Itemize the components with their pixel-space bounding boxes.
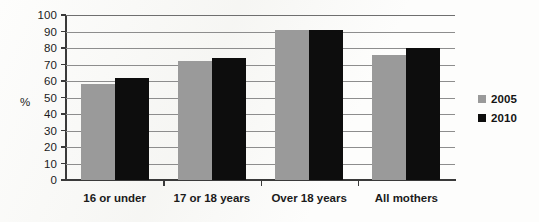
bar-pair — [358, 15, 455, 180]
x-axis-tick — [358, 180, 359, 186]
bar-2005 — [372, 55, 406, 180]
x-axis-category-label: Over 18 years — [271, 192, 346, 204]
legend-swatch-icon — [478, 95, 486, 103]
bar-group: 17 or 18 years — [163, 15, 260, 180]
y-axis-tick-label: 10 — [44, 158, 57, 170]
y-axis-tick-label: 30 — [44, 125, 57, 137]
legend-item-2010: 2010 — [478, 112, 517, 124]
bar-group: Over 18 years — [261, 15, 358, 180]
y-axis-tick-label: 40 — [44, 108, 57, 120]
x-axis-category-label: 16 or under — [83, 192, 146, 204]
y-axis-tick-label: 50 — [44, 92, 57, 104]
x-axis-tick — [163, 180, 164, 186]
bar-group: 16 or under — [66, 15, 163, 180]
x-axis-tick — [261, 180, 262, 186]
legend-label: 2005 — [491, 93, 517, 105]
bar-2010 — [212, 58, 246, 180]
y-axis-tick-label: 80 — [44, 42, 57, 54]
bar-2005 — [275, 30, 309, 180]
legend-swatch-icon — [478, 114, 486, 122]
y-axis-tick-label: 20 — [44, 141, 57, 153]
x-axis-category-label: 17 or 18 years — [174, 192, 251, 204]
bar-pair — [163, 15, 260, 180]
bar-chart: % 1009080706050403020100 16 or under17 o… — [0, 0, 539, 222]
bar-2005 — [81, 84, 115, 180]
y-axis-tick-label: 60 — [44, 75, 57, 87]
plot-area: 1009080706050403020100 16 or under17 or … — [66, 15, 455, 180]
legend-label: 2010 — [491, 112, 517, 124]
bar-2010 — [406, 48, 440, 180]
bar-2010 — [115, 78, 149, 180]
bar-pair — [261, 15, 358, 180]
y-axis-tick-label: 90 — [44, 26, 57, 38]
bar-2005 — [178, 61, 212, 180]
chart-legend: 20052010 — [478, 93, 517, 124]
bar-2010 — [309, 30, 343, 180]
legend-item-2005: 2005 — [478, 93, 517, 105]
y-axis-tick-label: 0 — [51, 174, 58, 186]
y-axis-tick-label: 70 — [44, 59, 57, 71]
y-axis-unit-label: % — [20, 96, 30, 108]
bar-groups: 16 or under17 or 18 yearsOver 18 yearsAl… — [66, 15, 455, 180]
bar-pair — [66, 15, 163, 180]
x-axis-category-label: All mothers — [375, 192, 438, 204]
y-axis-tick-label: 100 — [38, 9, 58, 21]
bar-group: All mothers — [358, 15, 455, 180]
